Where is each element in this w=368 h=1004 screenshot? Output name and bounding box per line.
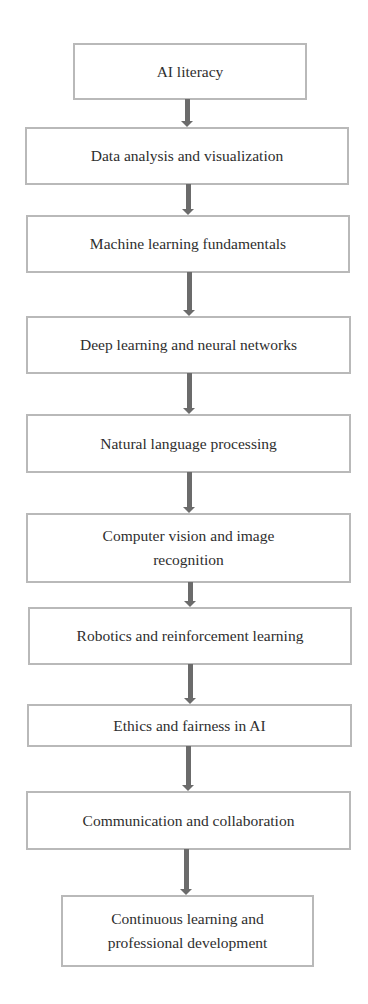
arrow-down-icon xyxy=(183,272,195,317)
step-label: Deep learning and neural networks xyxy=(80,333,297,357)
arrow-down-icon xyxy=(181,99,193,128)
arrow-down-icon xyxy=(183,373,195,415)
step-label-line: Continuous learning and xyxy=(108,907,268,931)
flowchart: AI literacy Data analysis and visualizat… xyxy=(0,0,368,1004)
step-label: Continuous learning and professional dev… xyxy=(108,907,268,955)
step-ethics: Ethics and fairness in AI xyxy=(27,704,352,747)
step-label: Robotics and reinforcement learning xyxy=(77,624,304,648)
step-label-line: recognition xyxy=(103,548,275,572)
arrow-down-icon xyxy=(183,472,195,514)
step-label: AI literacy xyxy=(157,60,224,84)
step-label-line: Computer vision and image xyxy=(103,524,275,548)
step-computer-vision: Computer vision and image recognition xyxy=(26,513,351,583)
arrow-down-icon xyxy=(180,849,192,896)
step-label: Machine learning fundamentals xyxy=(90,232,286,256)
step-machine-learning: Machine learning fundamentals xyxy=(26,215,350,273)
step-nlp: Natural language processing xyxy=(26,414,351,473)
step-communication: Communication and collaboration xyxy=(26,791,351,850)
step-label-line: professional development xyxy=(108,931,268,955)
arrow-down-icon xyxy=(182,184,194,216)
step-label: Communication and collaboration xyxy=(83,809,295,833)
step-continuous-learning: Continuous learning and professional dev… xyxy=(61,895,314,967)
step-label: Computer vision and image recognition xyxy=(103,524,275,572)
step-ai-literacy: AI literacy xyxy=(73,43,307,100)
step-robotics: Robotics and reinforcement learning xyxy=(28,607,352,665)
step-data-analysis: Data analysis and visualization xyxy=(25,127,349,185)
step-label: Natural language processing xyxy=(100,432,276,456)
step-label: Ethics and fairness in AI xyxy=(113,714,265,738)
arrow-down-icon xyxy=(182,746,194,792)
arrow-down-icon xyxy=(184,582,196,608)
step-label: Data analysis and visualization xyxy=(91,144,283,168)
arrow-down-icon xyxy=(184,664,196,705)
step-deep-learning: Deep learning and neural networks xyxy=(26,316,351,374)
